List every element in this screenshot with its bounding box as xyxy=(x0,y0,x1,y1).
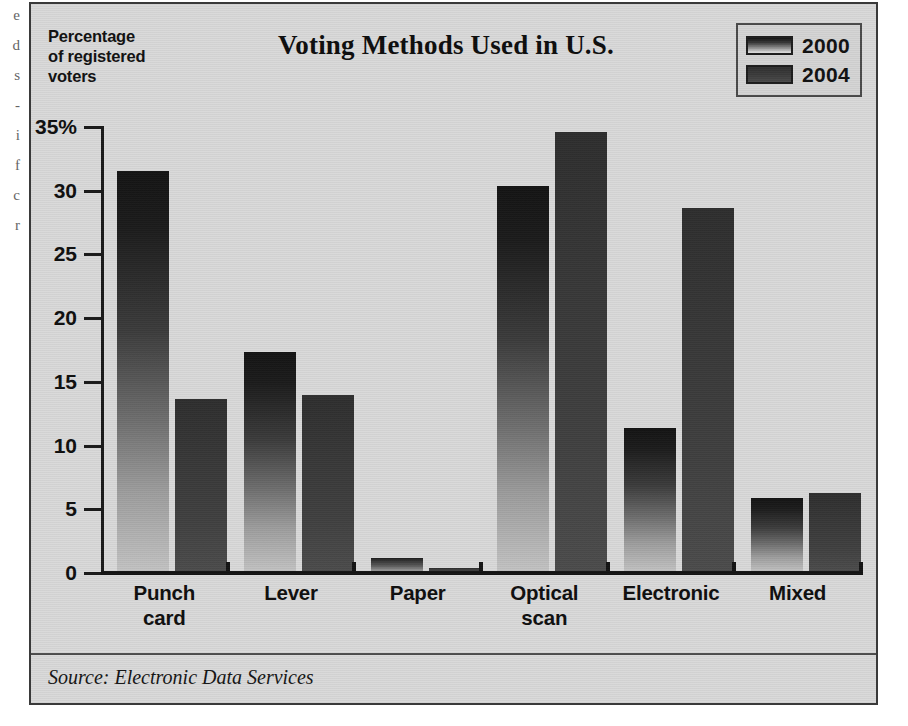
category-label-punch-card: Punchcard xyxy=(101,580,228,630)
x-tick-3 xyxy=(606,562,610,575)
category-label-line: Lever xyxy=(228,580,355,605)
y-axis-caption-line-3: voters xyxy=(48,66,145,86)
source-divider xyxy=(31,653,876,655)
y-tick-label-15: 15 xyxy=(54,370,77,394)
bar-optical-scan-2004 xyxy=(555,132,607,572)
category-label-line: Paper xyxy=(354,580,481,605)
edge-fragment-5: f xyxy=(0,150,20,180)
legend-entry-2004: 2004 xyxy=(746,60,850,89)
y-tick-label-35: 35% xyxy=(35,115,77,139)
bar-mixed-2004 xyxy=(809,493,861,572)
legend-label-2000: 2000 xyxy=(802,34,850,58)
legend-entry-2000: 2000 xyxy=(746,31,850,60)
category-label-line: Optical xyxy=(481,580,608,605)
edge-fragment-4: i xyxy=(0,120,20,150)
chart-figure-frame: Percentage of registered voters Voting M… xyxy=(29,2,878,705)
category-label-paper: Paper xyxy=(354,580,481,605)
y-tick-25: 25 xyxy=(84,253,103,256)
y-tick-30: 30 xyxy=(84,190,103,193)
y-tick-20: 20 xyxy=(84,317,103,320)
legend-swatch-2000-icon xyxy=(746,36,793,55)
y-tick-35: 35% xyxy=(84,126,103,129)
bar-paper-2000 xyxy=(371,558,423,572)
y-tick-label-10: 10 xyxy=(54,434,77,458)
y-tick-10: 10 xyxy=(84,445,103,448)
bar-mixed-2000 xyxy=(751,498,803,572)
bar-electronic-2004 xyxy=(682,208,734,572)
y-axis-caption-line-2: of registered xyxy=(48,46,145,66)
y-tick-label-30: 30 xyxy=(54,179,77,203)
edge-fragment-1: d xyxy=(0,30,20,60)
category-label-line: Punch xyxy=(101,580,228,605)
y-axis-caption: Percentage of registered voters xyxy=(48,26,145,86)
y-axis-line xyxy=(101,126,104,572)
x-tick-2 xyxy=(479,562,483,575)
legend-label-2004: 2004 xyxy=(802,63,850,87)
category-label-electronic: Electronic xyxy=(608,580,735,605)
x-tick-0 xyxy=(226,562,230,575)
source-caption: Source: Electronic Data Services xyxy=(48,666,314,689)
y-tick-5: 5 xyxy=(84,508,103,511)
chart-legend: 2000 2004 xyxy=(736,23,862,97)
edge-fragment-6: c xyxy=(0,180,20,210)
y-tick-label-5: 5 xyxy=(65,497,77,521)
page-edge-sliver: eds-ifcr xyxy=(0,0,22,726)
x-tick-5 xyxy=(859,562,863,575)
edge-fragment-3: - xyxy=(0,90,20,120)
category-label-lever: Lever xyxy=(228,580,355,605)
category-label-mixed: Mixed xyxy=(734,580,861,605)
bar-electronic-2000 xyxy=(624,428,676,572)
category-label-optical-scan: Opticalscan xyxy=(481,580,608,630)
bar-punch-card-2004 xyxy=(175,399,227,572)
y-tick-label-20: 20 xyxy=(54,306,77,330)
chart-title: Voting Methods Used in U.S. xyxy=(236,30,656,61)
category-label-line: Electronic xyxy=(608,580,735,605)
category-label-line: scan xyxy=(481,605,608,630)
category-label-line: Mixed xyxy=(734,580,861,605)
bar-optical-scan-2000 xyxy=(497,186,549,572)
y-tick-15: 15 xyxy=(84,381,103,384)
y-axis-caption-line-1: Percentage xyxy=(48,26,145,46)
x-tick-1 xyxy=(352,562,356,575)
x-tick-4 xyxy=(732,562,736,575)
legend-swatch-2004-icon xyxy=(746,65,793,84)
edge-fragment-2: s xyxy=(0,60,20,90)
edge-fragment-7: r xyxy=(0,210,20,240)
y-tick-label-0: 0 xyxy=(65,561,77,585)
edge-fragment-0: e xyxy=(0,0,20,30)
bar-punch-card-2000 xyxy=(117,171,169,572)
y-tick-label-25: 25 xyxy=(54,242,77,266)
bar-lever-2004 xyxy=(302,395,354,572)
bar-lever-2000 xyxy=(244,352,296,572)
plot-area: 05101520253035% PunchcardLeverPaperOptic… xyxy=(101,126,861,572)
category-label-line: card xyxy=(101,605,228,630)
